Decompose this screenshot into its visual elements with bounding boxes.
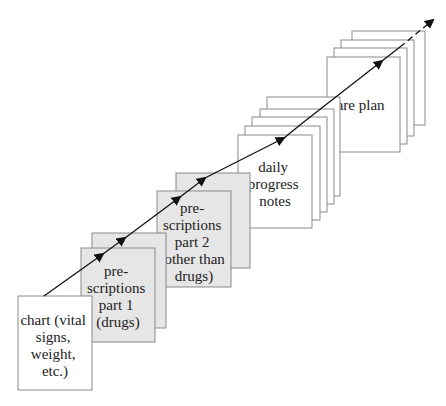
prescriptions-part-1-stack: pre- scriptions part 1 (drugs) [81, 233, 166, 342]
care-plan-stack: care plan [327, 31, 425, 152]
daily-progress-notes-stack: daily progress notes [238, 97, 340, 228]
medical-record-diagram: care plan daily progress notes pre- scri… [0, 0, 446, 406]
chart-sheet: chart (vital signs, weight, etc.) [18, 296, 92, 390]
prescriptions-part-2-stack: pre- scriptions part 2 (other than drugs… [157, 173, 250, 287]
